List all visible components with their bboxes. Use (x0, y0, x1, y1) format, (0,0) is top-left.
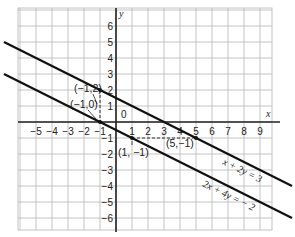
x-tick-label: −3 (62, 126, 74, 137)
y-tick-label: −4 (102, 181, 114, 192)
x-axis-label: x (265, 108, 271, 119)
x-tick-label: 7 (225, 126, 231, 137)
point-label-1-neg1: (1, −1) (118, 146, 149, 158)
origin-label: 0 (121, 109, 127, 120)
coordinate-plane-chart: −5−4−3−2−1123456789654321−1−2−3−4−5−6 y … (0, 0, 295, 237)
x-tick-label: 6 (209, 126, 215, 137)
point-label-neg1-2: (−1,2) (74, 82, 102, 94)
point-label-5-neg1: (5,−1) (166, 137, 194, 149)
x-tick-label: 8 (241, 126, 247, 137)
data-point (194, 136, 198, 140)
x-tick-label: 3 (161, 126, 167, 137)
y-tick-label: 4 (107, 53, 113, 64)
x-tick-label: −5 (30, 126, 42, 137)
y-tick-label: −5 (102, 197, 114, 208)
data-point (130, 136, 134, 140)
y-tick-label: 5 (107, 37, 113, 48)
y-tick-label: −1 (102, 133, 114, 144)
y-tick-label: 6 (107, 21, 113, 32)
x-tick-label: 1 (129, 126, 135, 137)
data-point (98, 120, 102, 124)
x-tick-label: −4 (46, 126, 58, 137)
y-tick-label: −6 (102, 213, 114, 224)
y-tick-label: 3 (107, 69, 113, 80)
y-tick-label: 1 (107, 101, 113, 112)
y-tick-label: −3 (102, 165, 114, 176)
x-tick-label: 9 (257, 126, 263, 137)
x-tick-label: 2 (145, 126, 151, 137)
x-tick-label: 5 (193, 126, 199, 137)
x-tick-label: −2 (78, 126, 90, 137)
y-tick-label: −2 (102, 149, 114, 160)
y-axis-label: y (118, 8, 124, 19)
point-label-neg1-0: (−1,0) (70, 98, 98, 110)
